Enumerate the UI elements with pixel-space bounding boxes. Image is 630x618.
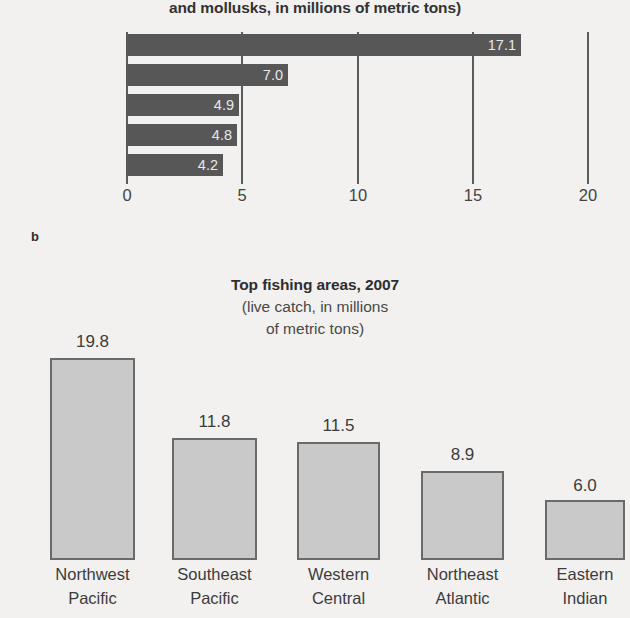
panel-b-value-label-eastern-indian: 6.0 [545,476,625,496]
panel-a-bar-china: 17.1 [126,34,521,56]
panel-a-title-line2: and mollusks, in millions of metric tons… [0,0,630,17]
panel-a-xtick-5: 5 [237,186,246,205]
panel-b-category-label-northeast-atlantic: NortheastAtlantic [407,562,518,610]
panel-b-category-label-western-central: WesternCentral [283,562,394,610]
panel-a-value-label-peru: 7.0 [263,67,283,83]
panel-a-xtick-15: 15 [464,186,482,205]
panel-b-column-northwest-pacific: 19.8 NorthwestPacific [50,244,135,618]
panel-a-xtick-10: 10 [349,186,367,205]
panel-a-xtick-20: 20 [579,186,597,205]
panel-b-bar-western-central [297,442,380,560]
panel-b-value-label-northeast-atlantic: 8.9 [421,445,504,465]
panel-b-category-line2-atlantic: Atlantic [435,589,489,607]
panel-a-bar-peru: 7.0 [126,64,288,86]
panel-a-bar-usa: 4.9 [126,94,239,116]
panel-a-row-indonesia: Indonesia 4.8 [126,124,588,146]
panel-b-bar-southeast-pacific [172,438,257,560]
panel-b-value-label-southeast-pacific: 11.8 [172,412,257,432]
panel-b-column-western-central: 11.5 WesternCentral [297,244,380,618]
panel-b-top-fishing-areas-chart: Top fishing areas, 2007 (live catch, in … [0,244,630,618]
panel-b-category-line1-eastern: Eastern [557,565,614,583]
panel-a-plot-area: China 17.1 Peru 7.0 USA 4.9 Indonesia 4.… [126,32,588,184]
panel-a-row-peru: Peru 7.0 [126,64,588,86]
panel-b-category-line1-northwest: Northwest [55,565,129,583]
panel-a-row-usa: USA 4.9 [126,94,588,116]
panel-b-category-line2-indian: Indian [563,589,608,607]
panel-a-value-label-china: 17.1 [488,37,516,53]
panel-b-value-label-northwest-pacific: 19.8 [50,332,135,352]
panel-a-value-label-japan: 4.2 [198,157,218,173]
panel-a-xtick-0: 0 [122,186,131,205]
panel-b-bar-northeast-atlantic [421,471,504,560]
panel-a-value-label-usa: 4.9 [214,97,234,113]
panel-a-bar-japan: 4.2 [126,154,223,176]
panel-a-bar-indonesia: 4.8 [126,124,237,146]
panel-a-top-fishing-nations-chart: (live catch of fish, crustaceans and mol… [0,0,630,212]
panel-b-value-label-western-central: 11.5 [297,416,380,436]
panel-a-value-label-indonesia: 4.8 [212,127,232,143]
panel-b-category-label-southeast-pacific: SoutheastPacific [158,562,271,610]
panel-b-category-label-eastern-indian: EasternIndian [531,562,630,610]
panel-b-column-southeast-pacific: 11.8 SoutheastPacific [172,244,257,618]
panel-b-column-eastern-indian: 6.0 EasternIndian [545,244,625,618]
panel-a-row-china: China 17.1 [126,34,588,56]
panel-b-column-northeast-atlantic: 8.9 NortheastAtlantic [421,244,504,618]
panel-b-category-line1-southeast: Southeast [177,565,251,583]
panel-a-row-japan: Japan 4.2 [126,154,588,176]
panel-b-bar-eastern-indian [545,500,625,560]
panel-b-letter-label: b [31,229,39,244]
panel-b-bar-northwest-pacific [50,358,135,560]
panel-b-category-line2-pacific: Pacific [68,589,117,607]
panel-b-category-line2-central: Central [312,589,365,607]
panel-b-category-line1-northeast: Northeast [427,565,499,583]
panel-b-category-line1-western: Western [308,565,369,583]
panel-b-category-label-northwest-pacific: NorthwestPacific [36,562,149,610]
panel-b-category-line2-pacific: Pacific [190,589,239,607]
